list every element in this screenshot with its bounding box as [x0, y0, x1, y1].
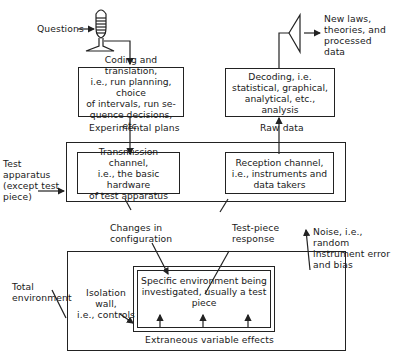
questions-label: Questions: [37, 23, 84, 34]
microphone-icon: [86, 10, 114, 51]
changes-in-configuration-label: Changes in configuration: [110, 222, 172, 244]
total-environment-label: Total environment: [12, 281, 72, 303]
raw-data-label: Raw data: [260, 122, 304, 133]
decoding-box: Decoding, i.e. statistical, graphical, a…: [225, 68, 335, 117]
test-apparatus-label: Test apparatus (except test piece): [3, 158, 59, 202]
test-piece-response-label: Test-piece response: [232, 222, 279, 244]
experimental-plans-label: Experimental plans: [89, 122, 180, 133]
speaker-icon: [289, 15, 300, 52]
coding-translation-box: Coding and translation, i.e., run planni…: [78, 67, 184, 117]
transmission-channel-box: Transmission channel, i.e., the basic ha…: [77, 152, 180, 194]
extraneous-effects-label: Extraneous variable effects: [145, 334, 274, 345]
specific-environment-text: Specific environment being investigated,…: [137, 274, 271, 308]
output-label: New laws, theories, and processed data: [324, 13, 386, 57]
isolation-wall-label: Isolation wall, i.e., controls: [77, 287, 135, 320]
reception-channel-box: Reception channel, i.e., instruments and…: [225, 152, 334, 194]
